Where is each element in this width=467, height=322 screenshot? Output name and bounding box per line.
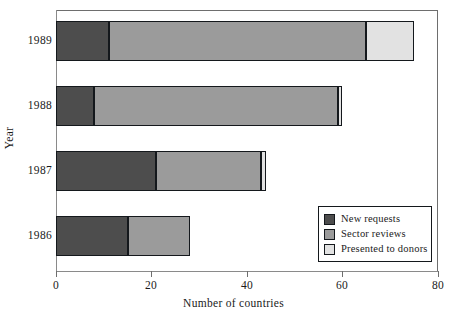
x-tick-mark-60 (342, 271, 343, 277)
y-tick-label-1986: 1986 (0, 229, 52, 241)
bar-segment-1989-presented-to-donors (366, 21, 414, 61)
legend-item-new-requests: New requests (324, 212, 426, 226)
x-tick-label-40: 40 (241, 279, 253, 291)
y-tick-label-1989: 1989 (0, 34, 52, 46)
x-tick-mark-40 (247, 271, 248, 277)
x-tick-mark-0 (56, 271, 57, 277)
legend-label-sector-reviews: Sector reviews (341, 229, 406, 240)
bar-segment-1987-new-requests (56, 151, 156, 191)
x-tick-label-0: 0 (53, 279, 59, 291)
y-axis-title: Year (3, 108, 15, 168)
bar-segment-1988-presented-to-donors (338, 86, 343, 126)
legend-label-presented-to-donors: Presented to donors (341, 244, 428, 255)
stacked-bar-chart: 1989 1988 1987 1986 (0, 0, 467, 322)
x-tick-mark-20 (151, 271, 152, 277)
x-tick-label-60: 60 (336, 279, 348, 291)
bar-segment-1986-sector-reviews (128, 216, 190, 256)
x-tick-mark-80 (438, 271, 439, 277)
bar-segment-1989-sector-reviews (109, 21, 367, 61)
bar-row-1987 (56, 151, 438, 191)
bar-segment-1988-new-requests (56, 86, 94, 126)
legend: New requests Sector reviews Presented to… (318, 206, 432, 262)
x-tick-label-80: 80 (432, 279, 444, 291)
x-tick-label-20: 20 (145, 279, 157, 291)
bar-row-1988 (56, 86, 438, 126)
legend-label-new-requests: New requests (341, 214, 400, 225)
bar-row-1989 (56, 21, 438, 61)
bar-segment-1988-sector-reviews (94, 86, 338, 126)
bar-segment-1986-new-requests (56, 216, 128, 256)
bar-segment-1989-new-requests (56, 21, 109, 61)
legend-swatch-icon-presented-to-donors (324, 244, 335, 255)
bar-segment-1987-sector-reviews (156, 151, 261, 191)
legend-swatch-icon-sector-reviews (324, 229, 335, 240)
bar-segment-1987-presented-to-donors (261, 151, 266, 191)
legend-item-presented-to-donors: Presented to donors (324, 242, 426, 256)
legend-swatch-icon-new-requests (324, 214, 335, 225)
legend-item-sector-reviews: Sector reviews (324, 227, 426, 241)
x-axis-title: Number of countries (0, 297, 467, 309)
